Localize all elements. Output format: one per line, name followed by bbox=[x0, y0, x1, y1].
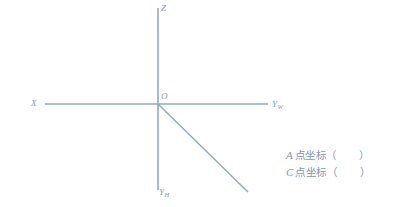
axis-label-y-h-base: Y bbox=[159, 187, 164, 197]
answer-point-label-c: C bbox=[286, 166, 295, 178]
answer-point-label-a: A bbox=[286, 149, 295, 161]
answer-line-a: A点坐标（） bbox=[286, 147, 398, 164]
answer-close-paren-c: ） bbox=[360, 167, 371, 178]
axis-label-y-w-subscript: W bbox=[278, 103, 284, 110]
answer-open-paren-a: （ bbox=[326, 150, 337, 161]
axis-label-y-h: YH bbox=[159, 188, 169, 197]
answer-open-paren-c: （ bbox=[327, 167, 338, 178]
answer-close-paren-a: ） bbox=[359, 150, 370, 161]
figure-canvas: Z O X YW YH A点坐标（） C点坐标（） bbox=[0, 0, 401, 207]
axis-label-y-w: YW bbox=[272, 100, 283, 109]
axis-label-y-w-base: Y bbox=[272, 99, 277, 109]
axis-label-x: X bbox=[31, 99, 37, 108]
axis-label-origin: O bbox=[161, 92, 168, 101]
answer-line-c: C点坐标（） bbox=[286, 164, 398, 181]
answer-text-c: 点坐标 bbox=[295, 167, 326, 178]
answer-block: A点坐标（） C点坐标（） bbox=[286, 147, 398, 181]
axis-label-z: Z bbox=[161, 4, 166, 13]
axis-label-y-h-subscript: H bbox=[165, 191, 170, 198]
answer-text-a: 点坐标 bbox=[295, 150, 326, 161]
axis-line-diagonal bbox=[158, 104, 248, 192]
